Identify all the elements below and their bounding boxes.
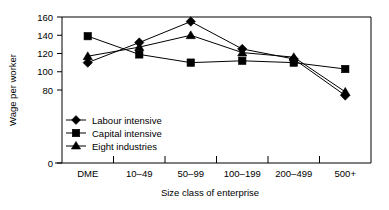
- x-axis-category-labels: DME 10–49 50–99 100–199 200–499 500+: [77, 168, 356, 179]
- x-category-label-dme: DME: [77, 168, 98, 179]
- series-line: [88, 36, 346, 69]
- y-tick-label-80: 80: [42, 85, 53, 96]
- chart-figure: 160 140 120 100 80 0 DME 10–49 50–99 100…: [0, 0, 389, 210]
- data-point: [84, 32, 91, 39]
- y-axis-title: Wage per worker: [7, 54, 18, 126]
- data-point: [186, 17, 195, 26]
- series-capital-intensive: [84, 32, 349, 72]
- y-axis-ticks: [57, 17, 62, 163]
- y-tick-label-140: 140: [37, 30, 53, 41]
- data-point: [186, 31, 195, 39]
- triangle-icon: [71, 141, 80, 149]
- diamond-icon: [72, 116, 81, 125]
- data-point: [239, 57, 246, 64]
- wage-per-worker-line-chart: 160 140 120 100 80 0 DME 10–49 50–99 100…: [0, 0, 389, 210]
- data-point: [136, 51, 143, 58]
- x-category-label-500plus: 500+: [335, 168, 357, 179]
- y-tick-label-100: 100: [37, 66, 53, 77]
- chart-legend: Labour intensive Capital intensive Eight…: [66, 115, 162, 152]
- data-point: [341, 87, 350, 95]
- x-category-label-100-199: 100–199: [224, 168, 261, 179]
- series-labour-intensive: [83, 17, 350, 100]
- legend-entry-eight-industries: Eight industries: [66, 141, 157, 152]
- series-eight-industries: [83, 31, 350, 95]
- legend-entry-capital-intensive: Capital intensive: [66, 128, 162, 139]
- x-axis-title: Size class of enterprise: [161, 187, 259, 198]
- series-line: [88, 22, 346, 96]
- x-category-label-200-499: 200–499: [275, 168, 312, 179]
- legend-entry-labour-intensive: Labour intensive: [66, 115, 162, 126]
- legend-label-labour-intensive: Labour intensive: [92, 115, 162, 126]
- y-axis-tick-labels: 160 140 120 100 80 0: [37, 12, 53, 169]
- x-category-label-10-49: 10–49: [126, 168, 152, 179]
- legend-label-eight-industries: Eight industries: [92, 141, 157, 152]
- series-line: [88, 35, 346, 92]
- y-tick-label-160: 160: [37, 12, 53, 23]
- square-icon: [72, 129, 79, 136]
- legend-label-capital-intensive: Capital intensive: [92, 128, 162, 139]
- x-axis-ticks: [114, 156, 320, 163]
- data-point: [342, 65, 349, 72]
- data-point: [187, 59, 194, 66]
- data-series-layer: [83, 17, 350, 100]
- x-category-label-50-99: 50–99: [178, 168, 204, 179]
- y-tick-label-120: 120: [37, 48, 53, 59]
- y-tick-label-0: 0: [48, 158, 53, 169]
